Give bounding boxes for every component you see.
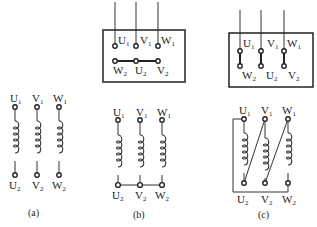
label-u2: U2: [112, 189, 124, 203]
panel-a: U1 V1 W1 U2 V2 W2 (a): [9, 92, 67, 219]
box-label-w1: W1: [161, 34, 175, 48]
terminal-v1: [35, 105, 39, 109]
label-u1: U1: [239, 104, 251, 118]
caption-b: (b): [133, 209, 145, 221]
winding-v: [139, 121, 144, 185]
box-label-u2: U2: [135, 64, 147, 78]
winding-w: [58, 109, 63, 173]
terminal-w2: [57, 173, 61, 177]
terminal-box-star: U1 V1 W1 W2 U2 V2: [103, 2, 185, 82]
terminal-v2: [35, 173, 39, 177]
panel-c: U1 V1 W1 W2 U2 V2 U1 V1 W1: [229, 10, 313, 221]
winding-w: [161, 121, 166, 185]
box-label-v1: V1: [140, 34, 152, 48]
label-w2: W2: [282, 193, 296, 207]
winding-u: [14, 109, 19, 173]
label-w2: W2: [155, 189, 169, 203]
box-label-v2: V2: [288, 69, 300, 83]
label-v2: V2: [32, 179, 44, 193]
label-u2: U2: [237, 193, 249, 207]
terminal-u2: [13, 173, 17, 177]
caption-a: (a): [28, 207, 39, 219]
label-v1: V1: [32, 92, 44, 106]
label-u2: U2: [9, 179, 21, 193]
label-v2: V2: [261, 193, 273, 207]
box-label-v2: V2: [157, 64, 169, 78]
link-w2-u1: [233, 119, 288, 192]
box-label-w2: W2: [113, 64, 127, 78]
terminal-box-delta: U1 V1 W1 W2 U2 V2: [229, 10, 313, 87]
label-w1: W1: [157, 106, 171, 120]
box-label-w1: W1: [287, 37, 301, 51]
box-label-u1: U1: [118, 34, 130, 48]
box-label-u2: U2: [266, 69, 278, 83]
motor-winding-connection-diagram: U1 V1 W1 U2 V2 W2 (a): [0, 0, 317, 227]
winding-w: [287, 119, 292, 183]
winding-v: [36, 109, 41, 173]
label-v2: V2: [135, 189, 147, 203]
terminal-w1: [57, 105, 61, 109]
box-label-w2: W2: [242, 69, 256, 83]
label-u1: U1: [10, 92, 22, 106]
box-label-v1: V1: [267, 37, 279, 51]
winding-u: [117, 121, 122, 185]
label-w2: W2: [52, 179, 66, 193]
caption-c: (c): [258, 209, 269, 221]
label-w1: W1: [53, 92, 67, 106]
panel-b: U1 V1 W1 W2 U2 V2 U1 V1 W1: [103, 2, 185, 221]
label-w1: W1: [282, 104, 296, 118]
box-label-u1: U1: [243, 37, 255, 51]
label-v1: V1: [261, 104, 273, 118]
terminal-u1: [13, 105, 17, 109]
